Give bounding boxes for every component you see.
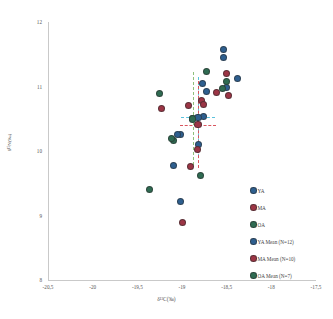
legend-marker-icon [250, 204, 257, 211]
data-point-oa [219, 85, 226, 92]
data-point-ya [234, 75, 241, 82]
data-point-ma [223, 70, 230, 77]
x-tick-label: -20 [73, 284, 113, 290]
x-tick-label: -17,5 [296, 284, 333, 290]
y-axis-title: δ¹⁵N(‰) [7, 120, 12, 166]
y-tick-label: 9 [18, 213, 42, 219]
data-point-ma [225, 92, 232, 99]
x-tick-label: -19 [162, 284, 202, 290]
mean-marker-oa [189, 115, 197, 123]
data-point-oa [156, 90, 163, 97]
y-tick-label: 10 [18, 148, 42, 154]
legend-item-label: OA Mean (N=7) [258, 273, 292, 279]
y-tick-label: 12 [18, 19, 42, 25]
legend-marker-icon [250, 255, 257, 262]
legend-item-oa-mean-n-7[interactable]: OA Mean (N=7) [250, 267, 332, 284]
data-point-oa [146, 186, 153, 193]
data-point-oa [168, 135, 175, 142]
mean-marker-ma [194, 121, 202, 129]
legend-marker-icon [250, 238, 257, 245]
legend-item-label: MA Mean (N=10) [258, 256, 296, 262]
data-point-ya [220, 46, 227, 53]
data-point-ya [170, 162, 177, 169]
legend: YAMAOAYA Mean (N=12)MA Mean (N=10)OA Mea… [250, 182, 332, 284]
data-point-ma [200, 101, 207, 108]
data-point-oa [203, 68, 210, 75]
x-tick-label: -19,5 [117, 284, 157, 290]
data-point-oa [197, 172, 204, 179]
legend-item-ma[interactable]: MA [250, 199, 332, 216]
y-axis-line [48, 22, 49, 280]
legend-item-ya-mean-n-12[interactable]: YA Mean (N=12) [250, 233, 332, 250]
data-point-oa [223, 78, 230, 85]
legend-marker-icon [250, 272, 257, 279]
legend-marker-icon [250, 187, 257, 194]
legend-item-label: YA [258, 188, 265, 194]
legend-marker-icon [250, 221, 257, 228]
data-point-ma [194, 146, 201, 153]
x-tick-label: -18 [251, 284, 291, 290]
legend-item-label: OA [258, 222, 266, 228]
data-point-ya [177, 198, 184, 205]
data-point-ya [203, 88, 210, 95]
x-tick-label: -20,5 [28, 284, 68, 290]
data-point-ma [158, 105, 165, 112]
data-point-ma [185, 102, 192, 109]
y-tick-label: 8 [18, 277, 42, 283]
data-point-ma [187, 163, 194, 170]
legend-item-ya[interactable]: YA [250, 182, 332, 199]
x-axis-title: δ¹³C(‰) [0, 296, 333, 302]
legend-item-ma-mean-n-10[interactable]: MA Mean (N=10) [250, 250, 332, 267]
data-point-ya [220, 54, 227, 61]
x-tick-label: -18,5 [207, 284, 247, 290]
scatter-plot: 12111098 -20,5-20-19,5-19-18,5-18-17,5 δ… [0, 0, 333, 319]
legend-item-oa[interactable]: OA [250, 216, 332, 233]
data-point-ma [179, 219, 186, 226]
legend-item-label: YA Mean (N=12) [258, 239, 294, 245]
data-point-ya [199, 80, 206, 87]
legend-item-label: MA [258, 205, 266, 211]
y-tick-label: 11 [18, 84, 42, 90]
